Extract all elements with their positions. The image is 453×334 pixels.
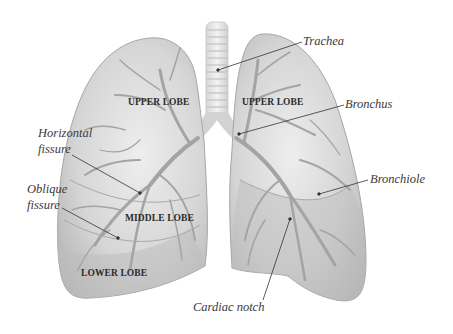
horizontal-fissure-label-line2: fissure [38,141,71,157]
left-upper-lobe-label: UPPER LOBE [242,97,303,107]
trachea-label: Trachea [303,33,344,49]
cardiac-notch-label: Cardiac notch [193,299,264,315]
lungs-diagram [0,0,453,334]
left-lung [230,34,366,301]
bronchus-label: Bronchus [345,96,392,112]
right-middle-lobe-label: MIDDLE LOBE [125,213,194,223]
bronchiole-label: Bronchiole [370,171,425,187]
oblique-fissure-label-line1: Oblique [27,181,67,197]
horizontal-fissure-label-line1: Horizontal [38,125,92,141]
oblique-fissure-label-line2: fissure [27,197,60,213]
right-upper-lobe-label: UPPER LOBE [128,97,189,107]
right-lower-lobe-label: LOWER LOBE [81,268,147,278]
